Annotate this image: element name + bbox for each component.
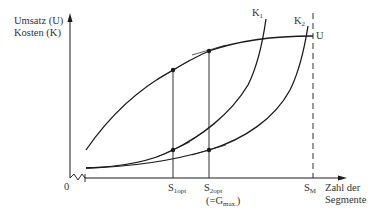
- s1opt-label: S1opt: [168, 182, 186, 195]
- sm-label: SM: [304, 182, 316, 195]
- s2opt-note-sub: max.: [223, 200, 237, 208]
- sm-label-sub: M: [310, 187, 316, 195]
- k1-label: K1: [252, 7, 263, 20]
- x-axis-label-line1: Zahl der: [325, 182, 360, 194]
- k1-label-sub: 1: [260, 12, 264, 20]
- u-label: U: [316, 30, 324, 42]
- s2opt-note: (=Gmax.): [206, 195, 240, 208]
- origin-label: 0: [64, 181, 69, 193]
- s2opt-label: S2opt: [204, 182, 222, 195]
- x-axis-arrow-icon: [338, 176, 347, 181]
- point-u-s2opt: [207, 49, 211, 53]
- k2-label: K2: [294, 15, 305, 28]
- point-k1-s1opt: [171, 148, 175, 152]
- k2-label-sub: 2: [302, 20, 306, 28]
- cost-curve-k2: [86, 26, 308, 168]
- sm-label-main: S: [304, 182, 310, 193]
- s2opt-note-suffix: ): [237, 195, 241, 206]
- k2-label-main: K: [294, 15, 302, 26]
- cost-curve-k1: [86, 19, 266, 168]
- s2opt-note-prefix: (=G: [206, 195, 223, 206]
- y-axis-arrow-icon: [68, 13, 73, 22]
- point-k2-s2opt: [207, 148, 211, 152]
- y-axis-label-line1: Umsatz (U): [14, 15, 63, 27]
- k1-label-main: K: [252, 7, 260, 18]
- s2opt-label-sub: 2opt: [210, 187, 222, 195]
- s1opt-label-sub: 1opt: [174, 187, 186, 195]
- point-u-s1opt: [171, 68, 175, 72]
- y-axis-label-line2: Kosten (K): [14, 27, 61, 39]
- s1opt-label-main: S: [168, 182, 174, 193]
- s2opt-label-main: S: [204, 182, 210, 193]
- x-axis-label-line2: Segmente: [325, 194, 366, 206]
- axis-break-icon: [70, 174, 85, 180]
